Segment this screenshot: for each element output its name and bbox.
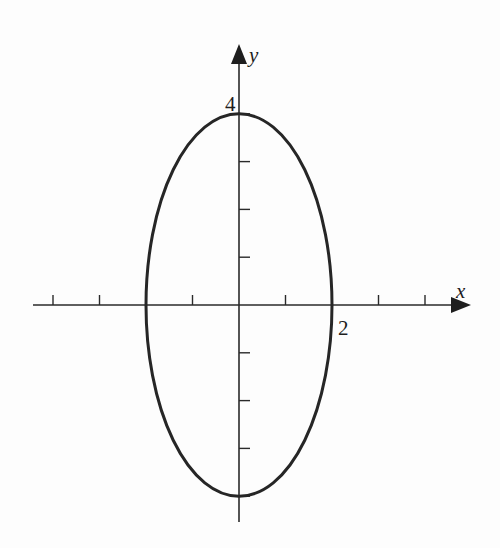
y-axis-label: y: [247, 43, 259, 67]
x-axis-label: x: [455, 279, 466, 303]
tick-labels: 42: [225, 92, 349, 340]
ellipse-graph: x y 42: [0, 0, 500, 548]
y-axis-arrow-icon: [231, 44, 247, 64]
tick-label-y-4: 4: [225, 92, 236, 116]
tick-label-x-2: 2: [338, 316, 349, 340]
